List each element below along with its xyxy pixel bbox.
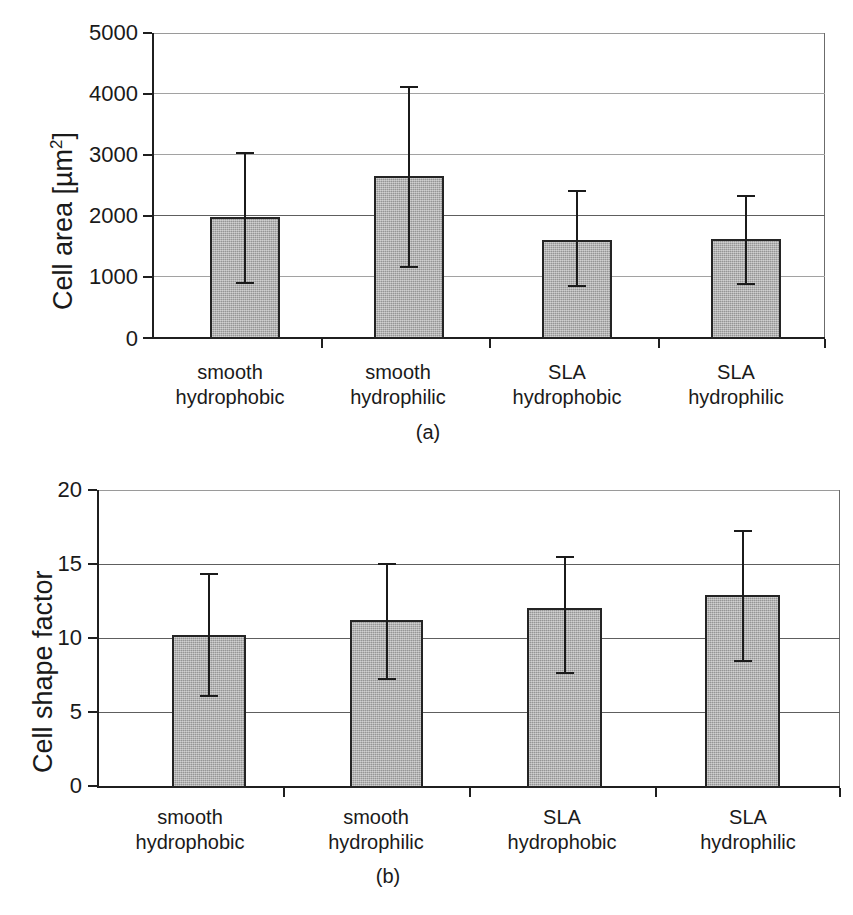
x-category-line1: SLA bbox=[487, 360, 647, 385]
x-category-label-sla-hydrophobic: SLA hydrophobic bbox=[482, 805, 642, 855]
x-category-line2: hydrophilic bbox=[296, 830, 456, 855]
errorbar-cap-upper-sla-hydrophobic bbox=[568, 190, 586, 192]
y-tick-label-2000: 2000 bbox=[56, 205, 138, 227]
y-axis-tick-5000 bbox=[143, 32, 152, 34]
errorbar-cap-lower-sla-hydrophobic bbox=[568, 285, 586, 287]
plot-top-edge bbox=[154, 33, 825, 34]
x-category-line1: SLA bbox=[656, 360, 816, 385]
y-axis-tick-4000 bbox=[143, 93, 152, 95]
x-axis-tick-3 bbox=[658, 339, 660, 348]
y-tick-label-15: 15 bbox=[36, 553, 82, 575]
errorbar-cap-lower-smooth-hydrophilic bbox=[378, 678, 396, 680]
y-tick-label-4000: 4000 bbox=[56, 83, 138, 105]
x-category-line2: hydrophilic bbox=[318, 385, 478, 410]
errorbar-cap-upper-smooth-hydrophilic bbox=[400, 86, 418, 88]
x-category-label-sla-hydrophilic: SLA hydrophilic bbox=[656, 360, 816, 410]
y-axis-tick-15 bbox=[88, 563, 97, 565]
x-category-label-smooth-hydrophilic: smooth hydrophilic bbox=[318, 360, 478, 410]
x-axis-tick-2 bbox=[469, 788, 471, 797]
errorbar-cap-lower-sla-hydrophilic bbox=[737, 283, 755, 285]
errorbar-stem-sla-hydrophobic bbox=[564, 557, 566, 673]
errorbar-stem-smooth-hydrophobic bbox=[208, 574, 210, 696]
y-tick-label-1000: 1000 bbox=[56, 266, 138, 288]
errorbar-cap-lower-sla-hydrophilic bbox=[734, 660, 752, 662]
x-category-line2: hydrophilic bbox=[668, 830, 828, 855]
y-tick-label-20: 20 bbox=[36, 479, 82, 501]
errorbar-cap-lower-smooth-hydrophobic bbox=[236, 282, 254, 284]
y-axis-title-cell-shape-factor: Cell shape factor bbox=[28, 570, 59, 773]
plot-area-cell-area bbox=[152, 33, 825, 339]
plot-top-edge bbox=[99, 490, 840, 491]
y-tick-label-3000: 3000 bbox=[56, 144, 138, 166]
y-axis-tick-3000 bbox=[143, 154, 152, 156]
errorbar-cap-upper-sla-hydrophobic bbox=[556, 556, 574, 558]
x-category-line2: hydrophobic bbox=[487, 385, 647, 410]
x-axis-tick-3 bbox=[655, 788, 657, 797]
errorbar-stem-smooth-hydrophobic bbox=[244, 153, 246, 283]
errorbar-cap-lower-smooth-hydrophilic bbox=[400, 266, 418, 268]
x-axis-tick-4 bbox=[839, 788, 841, 797]
errorbar-cap-upper-smooth-hydrophobic bbox=[200, 573, 218, 575]
gridline-4000 bbox=[154, 93, 825, 94]
errorbar-cap-lower-smooth-hydrophobic bbox=[200, 695, 218, 697]
x-category-line1: smooth bbox=[296, 805, 456, 830]
errorbar-cap-upper-sla-hydrophilic bbox=[734, 530, 752, 532]
x-category-label-smooth-hydrophobic: smooth hydrophobic bbox=[110, 805, 270, 855]
y-tick-label-0: 0 bbox=[56, 328, 138, 350]
x-axis-tick-1 bbox=[321, 339, 323, 348]
x-category-line2: hydrophilic bbox=[656, 385, 816, 410]
panel-caption-a: (a) bbox=[388, 421, 468, 444]
y-tick-label-10: 10 bbox=[36, 627, 82, 649]
y-tick-label-0: 0 bbox=[36, 775, 82, 797]
errorbar-stem-smooth-hydrophilic bbox=[386, 564, 388, 679]
errorbar-stem-sla-hydrophilic bbox=[742, 531, 744, 661]
figure-two-panel-bar-charts: Cell area [µm2] 5000 4000 3000 2000 1000… bbox=[0, 0, 853, 915]
x-category-label-smooth-hydrophilic: smooth hydrophilic bbox=[296, 805, 456, 855]
x-axis-tick-2 bbox=[489, 339, 491, 348]
errorbar-stem-smooth-hydrophilic bbox=[408, 87, 410, 267]
x-category-line1: smooth bbox=[110, 805, 270, 830]
y-axis-tick-0 bbox=[143, 337, 152, 339]
gridline-15 bbox=[99, 564, 840, 565]
y-tick-label-5: 5 bbox=[36, 701, 82, 723]
plot-right-edge bbox=[824, 33, 825, 337]
gridline-3000 bbox=[154, 154, 825, 155]
x-axis-tick-4 bbox=[824, 339, 826, 348]
errorbar-cap-upper-smooth-hydrophobic bbox=[236, 152, 254, 154]
gridline-2000 bbox=[154, 215, 825, 216]
x-category-label-smooth-hydrophobic: smooth hydrophobic bbox=[150, 360, 310, 410]
panel-caption-b: (b) bbox=[348, 865, 428, 888]
x-axis-tick-1 bbox=[283, 788, 285, 797]
errorbar-cap-lower-sla-hydrophobic bbox=[556, 672, 574, 674]
x-category-line1: SLA bbox=[668, 805, 828, 830]
y-tick-label-5000: 5000 bbox=[56, 22, 138, 44]
y-axis-tick-10 bbox=[88, 637, 97, 639]
x-category-line1: smooth bbox=[150, 360, 310, 385]
y-axis-tick-5 bbox=[88, 711, 97, 713]
panel-b-cell-shape-factor: Cell shape factor 20 15 10 5 0 bbox=[0, 455, 853, 915]
plot-area-cell-shape-factor bbox=[97, 490, 840, 788]
x-category-line2: hydrophobic bbox=[150, 385, 310, 410]
errorbar-stem-sla-hydrophobic bbox=[576, 191, 578, 286]
y-axis-tick-20 bbox=[88, 489, 97, 491]
panel-a-cell-area: Cell area [µm2] 5000 4000 3000 2000 1000… bbox=[0, 0, 853, 455]
x-category-line1: SLA bbox=[482, 805, 642, 830]
y-axis-tick-2000 bbox=[143, 215, 152, 217]
errorbar-stem-sla-hydrophilic bbox=[745, 196, 747, 284]
x-category-line2: hydrophobic bbox=[482, 830, 642, 855]
errorbar-cap-upper-sla-hydrophilic bbox=[737, 195, 755, 197]
y-axis-tick-1000 bbox=[143, 276, 152, 278]
x-category-line1: smooth bbox=[318, 360, 478, 385]
errorbar-cap-upper-smooth-hydrophilic bbox=[378, 563, 396, 565]
x-category-line2: hydrophobic bbox=[110, 830, 270, 855]
x-category-label-sla-hydrophilic: SLA hydrophilic bbox=[668, 805, 828, 855]
y-axis-tick-0 bbox=[88, 785, 97, 787]
x-category-label-sla-hydrophobic: SLA hydrophobic bbox=[487, 360, 647, 410]
